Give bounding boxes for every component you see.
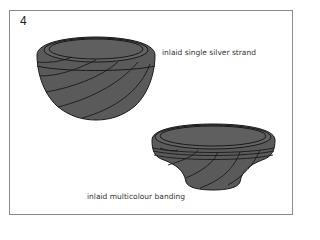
bowl-multicolour-banding — [152, 124, 275, 190]
label-bottom-bowl: inlaid multicolour banding — [87, 192, 185, 201]
label-top-bowl: inlaid single silver strand — [162, 48, 256, 57]
bowl-silver-strand — [37, 37, 155, 120]
